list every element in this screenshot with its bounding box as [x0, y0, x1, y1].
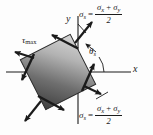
normal-arrow-lower-left — [25, 101, 41, 121]
equals-sign-top: = — [88, 9, 93, 19]
sigma-s-lhs-bottom: σs — [79, 110, 86, 121]
theta-s-subscript: s — [93, 50, 96, 57]
element-face — [20, 34, 95, 109]
sigma-s-subscript-top: s — [83, 12, 86, 19]
equals-sign-bottom: = — [88, 110, 93, 120]
fraction-denominator-bottom: 2 — [105, 116, 113, 126]
fraction-numerator-top: σx + σy — [95, 3, 122, 14]
sigma-s-subscript-bottom: s — [83, 113, 86, 120]
sigma-s-lhs-top: σs — [79, 9, 86, 20]
fraction-top: σx + σy 2 — [95, 3, 122, 25]
sigma-s-equation-bottom: σs = σx + σy 2 — [79, 104, 122, 126]
sigma-s-equation-top: σs = σx + σy 2 — [79, 3, 122, 25]
sigma-top-leader — [78, 24, 86, 33]
x-axis-label: x — [133, 64, 137, 74]
figure-canvas — [0, 0, 153, 135]
fraction-numerator-bottom: σx + σy — [95, 104, 122, 115]
theta-s-label: θs — [89, 47, 96, 57]
normal-arrow-lower-right — [84, 86, 101, 94]
numerator-sigma-y-subscript-top: y — [117, 6, 120, 13]
stress-element-square — [20, 34, 95, 109]
fraction-bottom: σx + σy 2 — [95, 104, 122, 126]
numerator-sigma-y-subscript-bottom: y — [117, 107, 120, 114]
fraction-denominator-top: 2 — [105, 15, 113, 25]
y-axis-label: y — [66, 14, 70, 24]
tau-max-subscript: max — [25, 38, 36, 45]
stress-element-figure: y x τmax θs σs = σx + σy 2 σs = σx + σy … — [0, 0, 153, 135]
tau-max-label: τmax — [22, 36, 36, 46]
theta-arc — [99, 57, 104, 72]
